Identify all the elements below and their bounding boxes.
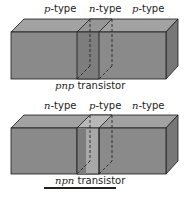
caption-rule xyxy=(44,187,116,189)
pnp-region-3-label: p-type xyxy=(132,3,164,14)
npn-region-2-label: p-type xyxy=(89,100,121,111)
npn-region-3-label: n-type xyxy=(132,100,164,111)
npn-block xyxy=(11,115,178,174)
npn-region-1-label: n-type xyxy=(44,100,76,111)
pnp-region-2-label: n-type xyxy=(89,3,121,14)
npn-caption: npn transistor xyxy=(55,175,125,186)
pnp-block xyxy=(11,19,178,79)
pnp-region-1-label: p-type xyxy=(44,3,76,14)
pnp-caption: pnp transistor xyxy=(55,80,125,91)
